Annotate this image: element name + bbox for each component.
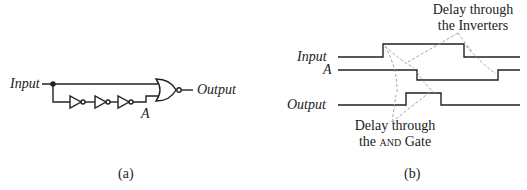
input-waveform	[338, 44, 520, 57]
caption-a: (a)	[118, 166, 134, 182]
circuit-output-label: Output	[197, 82, 236, 98]
caption-b: (b)	[404, 166, 420, 182]
circuit-input-label: Input	[10, 76, 40, 92]
gate-delay-annotation: Delay through the AND Gate	[340, 118, 450, 151]
annotation-text: the	[359, 134, 380, 149]
inverter-1	[70, 96, 81, 108]
timing-a-label: A	[323, 62, 332, 78]
annotation-text: AND	[380, 137, 402, 148]
annotation-line: Delay through	[340, 118, 450, 134]
annotation-line: the Inverters	[418, 18, 527, 34]
inverter-delay-annotation: Delay through the Inverters	[418, 2, 527, 34]
timing-output-label: Output	[287, 97, 326, 113]
delay-annotations	[385, 33, 496, 122]
inverter-3	[118, 96, 129, 108]
output-waveform	[338, 93, 520, 105]
timing-waveforms	[338, 44, 520, 105]
node-a-label: A	[141, 106, 150, 122]
nor-bubble	[177, 88, 181, 92]
circuit-schematic	[42, 79, 193, 108]
annotation-text: Gate	[401, 134, 431, 149]
inverter-2	[95, 96, 106, 108]
annotation-line: Delay through	[418, 2, 527, 18]
nor-gate	[156, 79, 176, 101]
annotation-line: the AND Gate	[340, 134, 450, 151]
